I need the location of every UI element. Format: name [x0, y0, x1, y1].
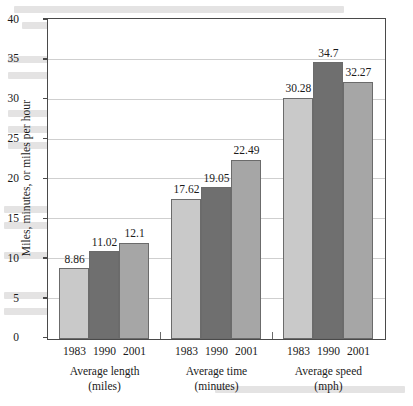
- x-axis-year-label-2001: 2001: [226, 345, 268, 357]
- bar-average-speed-1983: [283, 98, 313, 339]
- x-axis-year-label-2001: 2001: [114, 345, 156, 357]
- bar-average-time-2001: [231, 160, 261, 339]
- bar-value-label: 19.05: [193, 173, 241, 185]
- bar-average-length-1983: [59, 268, 89, 339]
- group-label-line2: (mph): [272, 379, 384, 394]
- bar-value-label: 30.28: [274, 83, 322, 95]
- bar-value-label: 8.86: [51, 254, 99, 266]
- bar-value-label: 12.1: [111, 228, 159, 240]
- bar-average-speed-2001: [343, 82, 373, 339]
- y-axis-tick-label: 0: [0, 332, 19, 344]
- y-axis-tick-mark: [43, 218, 48, 219]
- bar-chart-figure: Miles, minutes, or miles per hour 051015…: [0, 0, 413, 406]
- x-axis-group-label: Average time(minutes): [161, 364, 273, 394]
- y-axis-tick-mark: [43, 337, 48, 338]
- x-axis-group-label: Average length(miles): [49, 364, 161, 394]
- y-axis-tick-mark: [43, 18, 48, 19]
- y-axis-tick-mark: [43, 138, 48, 139]
- bar-average-time-1983: [171, 199, 201, 339]
- group-label-line1: Average length: [49, 364, 161, 379]
- y-axis-tick-mark: [43, 178, 48, 179]
- y-axis-tick-label: 30: [0, 93, 19, 105]
- bar-average-length-2001: [119, 243, 149, 339]
- y-axis-tick-label: 10: [0, 253, 19, 265]
- y-axis-title: Miles, minutes, or miles per hour: [20, 68, 32, 288]
- y-axis-tick-label: 40: [0, 14, 19, 26]
- y-axis-tick-mark: [43, 297, 48, 298]
- y-axis-tick-label: 25: [0, 133, 19, 145]
- bar-value-label: 22.49: [223, 145, 271, 157]
- bar-value-label: 32.27: [334, 67, 382, 79]
- y-axis-tick-mark: [43, 257, 48, 258]
- y-axis-tick-label: 5: [0, 293, 19, 305]
- y-axis-tick-label: 20: [0, 173, 19, 185]
- group-label-line2: (miles): [49, 379, 161, 394]
- group-label-line1: Average time: [161, 364, 273, 379]
- x-axis-group-label: Average speed(mph): [272, 364, 384, 394]
- y-axis-tick-mark: [43, 58, 48, 59]
- group-label-line2: (minutes): [161, 379, 273, 394]
- bar-value-label: 17.62: [163, 184, 211, 196]
- x-axis-year-label-2001: 2001: [337, 345, 379, 357]
- bar-average-time-1990: [201, 187, 231, 339]
- y-axis-tick-label: 15: [0, 213, 19, 225]
- group-separator-tick: [160, 332, 161, 339]
- group-label-line1: Average speed: [272, 364, 384, 379]
- bar-value-label: 34.7: [304, 48, 352, 60]
- group-separator-tick: [272, 332, 273, 339]
- y-axis-tick-mark: [43, 98, 48, 99]
- y-axis-tick-label: 35: [0, 53, 19, 65]
- bar-average-speed-1990: [313, 62, 343, 339]
